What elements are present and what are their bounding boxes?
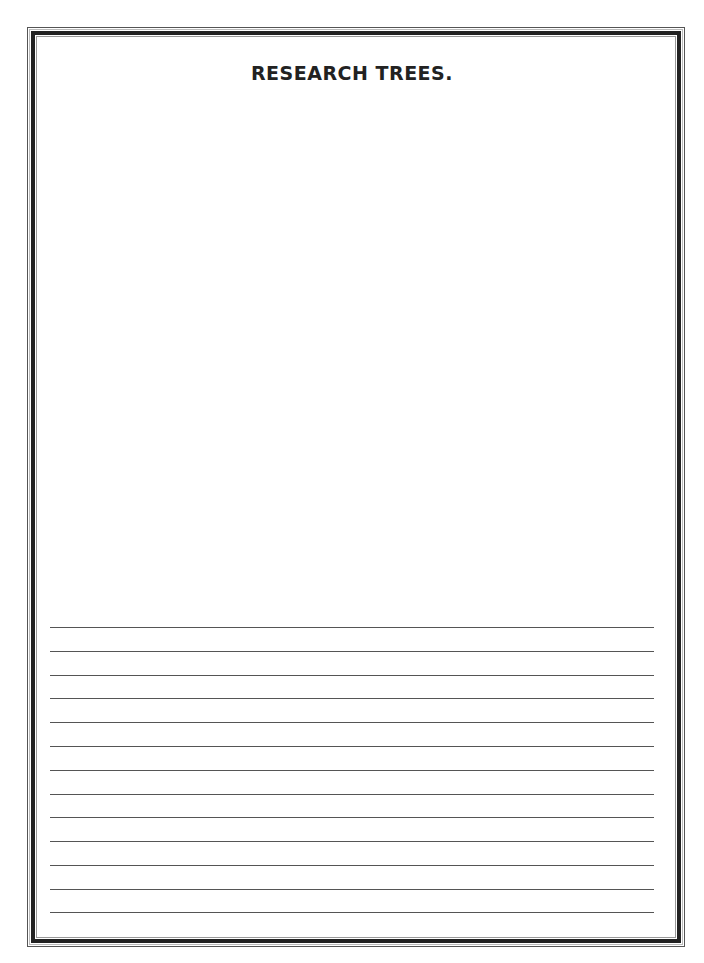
writing-line-10[interactable] xyxy=(50,841,654,842)
writing-line-5[interactable] xyxy=(50,722,654,723)
writing-line-8[interactable] xyxy=(50,794,654,795)
writing-line-12[interactable] xyxy=(50,889,654,890)
writing-line-9[interactable] xyxy=(50,817,654,818)
writing-line-1[interactable] xyxy=(50,627,654,628)
writing-line-2[interactable] xyxy=(50,651,654,652)
writing-line-6[interactable] xyxy=(50,746,654,747)
writing-line-13[interactable] xyxy=(50,912,654,913)
page-title: RESEARCH TREES. xyxy=(0,62,704,84)
writing-line-11[interactable] xyxy=(50,865,654,866)
writing-line-7[interactable] xyxy=(50,770,654,771)
drawing-area[interactable] xyxy=(50,110,654,610)
writing-line-3[interactable] xyxy=(50,675,654,676)
writing-line-4[interactable] xyxy=(50,698,654,699)
